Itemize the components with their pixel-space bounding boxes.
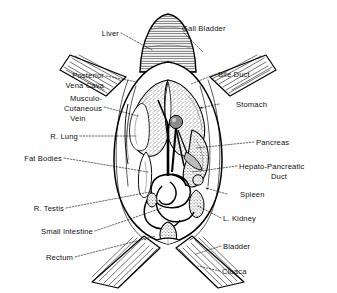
label-right-testis: R. Testis	[34, 204, 64, 213]
label-liver: Liver	[102, 29, 120, 38]
label-musculo-cutaneous-line1: Musculo-	[70, 94, 102, 103]
label-bile-duct: Bile Duct	[218, 70, 250, 79]
label-musculo-cutaneous-line3: Vein	[70, 114, 85, 123]
frog-dissection-figure: Liver Gall Bladder Posterior Vena Cava M…	[0, 0, 337, 293]
label-gall-bladder: Gall Bladder	[182, 24, 226, 33]
right-testis	[147, 193, 157, 207]
label-posterior-vena-cava-line2: Vena Cava	[65, 81, 104, 90]
label-rectum: Rectum	[46, 253, 73, 262]
label-pancreas: Pancreas	[256, 138, 289, 147]
spleen	[193, 175, 203, 185]
label-hepato-pancreatic-duct-line2: Duct	[271, 172, 288, 181]
label-right-lung: R. Lung	[50, 132, 78, 141]
label-posterior-vena-cava-line1: Posterior	[72, 71, 104, 80]
label-hepato-pancreatic-duct-line1: Hepato-Pancreatic	[239, 162, 304, 171]
label-spleen: Spleen	[240, 190, 265, 199]
label-musculo-cutaneous-line2: Cutaneous	[64, 104, 102, 113]
label-stomach: Stomach	[236, 100, 267, 109]
gall-bladder	[169, 115, 182, 128]
label-small-intestine: Small Intestine	[41, 227, 93, 236]
label-left-kidney: L. Kidney	[223, 214, 256, 223]
label-bladder: Bladder	[223, 242, 251, 251]
label-cloaca: Cloaca	[222, 267, 247, 276]
label-fat-bodies: Fat Bodies	[24, 154, 62, 163]
